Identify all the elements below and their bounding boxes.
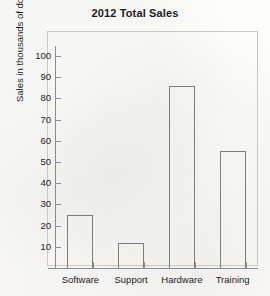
bar-support [118,243,144,268]
y-axis-tick [56,120,61,121]
bar-chart-figure: 2012 Total Sales Sales in thousands of d… [0,0,270,296]
y-axis-tick [56,98,61,99]
y-axis-tick [56,56,61,57]
x-axis-tick [144,262,145,269]
y-axis-tick-label: 60 [25,136,51,146]
y-axis-tick-label: 10 [25,242,51,252]
y-axis-tick-label: 20 [25,221,51,231]
y-axis-tick [56,77,61,78]
y-axis-tick [56,141,61,142]
y-axis-tick-label: 50 [25,157,51,167]
bar-software [67,215,93,268]
y-axis-tick-label: 100 [25,51,51,61]
y-axis-tick-label: 30 [25,199,51,209]
x-axis-label-training: Training [198,274,268,285]
x-axis-tick [246,262,247,269]
bar-hardware [169,86,195,268]
x-axis-tick [93,262,94,269]
y-axis-tick [56,247,61,248]
chart-title: 2012 Total Sales [0,7,270,19]
y-axis-tick-label: 40 [25,178,51,188]
y-axis-line [55,46,56,268]
x-axis-tick [195,262,196,269]
y-axis-tick [56,226,61,227]
y-axis-tick [56,204,61,205]
bar-training [220,151,246,268]
y-axis-tick-label: 80 [25,93,51,103]
x-axis-line [48,268,258,269]
y-axis-tick-label: 90 [25,72,51,82]
y-axis-tick-label: 70 [25,115,51,125]
y-axis-tick [56,183,61,184]
y-axis-label: Sales in thousands of dollars [14,0,25,102]
y-axis-tick [56,162,61,163]
